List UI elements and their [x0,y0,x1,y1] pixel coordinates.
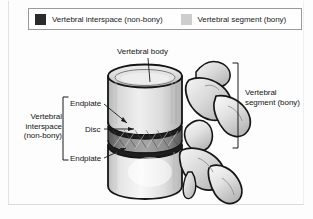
spine-illustration [0,0,313,219]
label-endplate-superior: Endplate [70,99,101,109]
upper-vertebral-body [108,65,182,136]
label-vertebral-segment: Vertebral segment (bony) [245,88,303,107]
anatomy-figure: Vertebral interspace (non-bony) Vertebra… [0,0,313,219]
label-vertebral-interspace: Vertebral interspace (non-bony) [8,112,62,141]
label-vertebral-body: Vertebral body [117,47,168,57]
label-endplate-inferior: Endplate [70,154,101,164]
interspace-bracket [63,97,68,160]
label-disc: Disc [85,125,100,135]
